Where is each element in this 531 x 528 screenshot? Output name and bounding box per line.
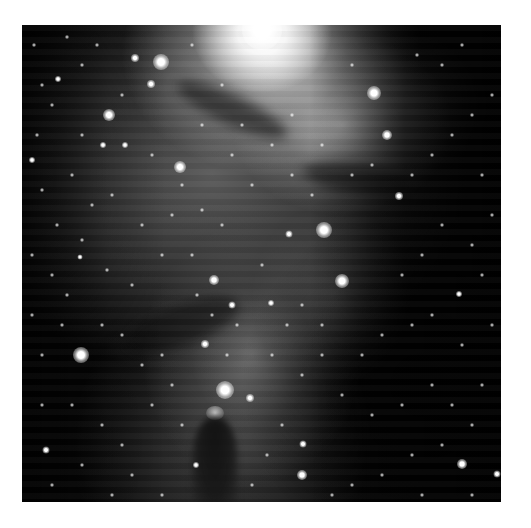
faint-star bbox=[65, 35, 69, 39]
faint-star bbox=[480, 383, 484, 387]
faint-star bbox=[380, 333, 384, 337]
faint-star bbox=[80, 238, 84, 242]
faint-star bbox=[480, 173, 484, 177]
faint-star bbox=[400, 273, 404, 277]
faint-star bbox=[50, 103, 54, 107]
bright-star bbox=[78, 255, 83, 260]
faint-star bbox=[150, 403, 154, 407]
faint-star bbox=[250, 183, 254, 187]
faint-star bbox=[420, 493, 424, 497]
faint-star bbox=[40, 353, 44, 357]
faint-star bbox=[80, 63, 84, 67]
faint-star bbox=[440, 63, 444, 67]
faint-star bbox=[50, 273, 54, 277]
faint-star bbox=[130, 283, 134, 287]
bright-star bbox=[147, 80, 155, 88]
faint-star bbox=[190, 253, 194, 257]
faint-star bbox=[430, 313, 434, 317]
bright-star bbox=[297, 470, 307, 480]
faint-star bbox=[220, 223, 224, 227]
faint-star bbox=[430, 383, 434, 387]
faint-star bbox=[95, 43, 99, 47]
faint-star bbox=[470, 423, 474, 427]
faint-star bbox=[120, 333, 124, 337]
faint-star bbox=[105, 268, 109, 272]
faint-star bbox=[265, 453, 269, 457]
bright-star bbox=[73, 347, 89, 363]
faint-star bbox=[320, 323, 324, 327]
faint-star bbox=[140, 223, 144, 227]
faint-star bbox=[270, 143, 274, 147]
faint-star bbox=[280, 423, 284, 427]
faint-star bbox=[300, 373, 304, 377]
faint-star bbox=[100, 423, 104, 427]
faint-star bbox=[470, 493, 474, 497]
faint-star bbox=[440, 223, 444, 227]
faint-star bbox=[100, 323, 104, 327]
faint-star bbox=[310, 193, 314, 197]
faint-star bbox=[180, 423, 184, 427]
faint-star bbox=[490, 323, 494, 327]
faint-star bbox=[470, 243, 474, 247]
faint-star bbox=[200, 123, 204, 127]
faint-star bbox=[380, 473, 384, 477]
bright-star bbox=[193, 462, 199, 468]
faint-star bbox=[230, 153, 234, 157]
bright-star bbox=[122, 142, 128, 148]
faint-star bbox=[160, 493, 164, 497]
faint-star bbox=[410, 453, 414, 457]
bright-star bbox=[246, 394, 254, 402]
faint-star bbox=[55, 223, 59, 227]
faint-star bbox=[490, 93, 494, 97]
faint-star bbox=[290, 113, 294, 117]
faint-star bbox=[260, 263, 264, 267]
bright-star bbox=[242, 25, 282, 50]
bright-star bbox=[456, 291, 462, 297]
faint-star bbox=[110, 493, 114, 497]
bright-star bbox=[316, 222, 332, 238]
nebula-image bbox=[22, 25, 501, 502]
faint-star bbox=[350, 63, 354, 67]
bright-star bbox=[201, 340, 209, 348]
faint-star bbox=[490, 213, 494, 217]
faint-star bbox=[200, 208, 204, 212]
bright-star bbox=[300, 441, 307, 448]
faint-star bbox=[370, 163, 374, 167]
faint-star bbox=[440, 443, 444, 447]
bright-star bbox=[286, 231, 293, 238]
faint-star bbox=[50, 483, 54, 487]
faint-star bbox=[32, 43, 36, 47]
faint-star bbox=[90, 203, 94, 207]
bright-star bbox=[131, 54, 139, 62]
star-field bbox=[22, 25, 501, 502]
faint-star bbox=[70, 173, 74, 177]
bright-star bbox=[335, 274, 349, 288]
bright-star bbox=[382, 130, 392, 140]
faint-star bbox=[300, 303, 304, 307]
bright-star bbox=[395, 192, 403, 200]
faint-star bbox=[460, 343, 464, 347]
faint-star bbox=[210, 313, 214, 317]
faint-star bbox=[35, 133, 39, 137]
faint-star bbox=[225, 353, 229, 357]
faint-star bbox=[320, 353, 324, 357]
faint-star bbox=[340, 393, 344, 397]
faint-star bbox=[235, 323, 239, 327]
faint-star bbox=[250, 483, 254, 487]
bright-star bbox=[29, 157, 35, 163]
faint-star bbox=[470, 113, 474, 117]
faint-star bbox=[360, 353, 364, 357]
bright-star bbox=[100, 142, 106, 148]
faint-star bbox=[290, 173, 294, 177]
faint-star bbox=[270, 353, 274, 357]
faint-star bbox=[80, 133, 84, 137]
faint-star bbox=[450, 403, 454, 407]
faint-star bbox=[130, 473, 134, 477]
bright-star bbox=[43, 447, 50, 454]
faint-star bbox=[160, 353, 164, 357]
faint-star bbox=[70, 403, 74, 407]
bright-star bbox=[457, 459, 467, 469]
faint-star bbox=[110, 193, 114, 197]
faint-star bbox=[120, 93, 124, 97]
faint-star bbox=[30, 253, 34, 257]
